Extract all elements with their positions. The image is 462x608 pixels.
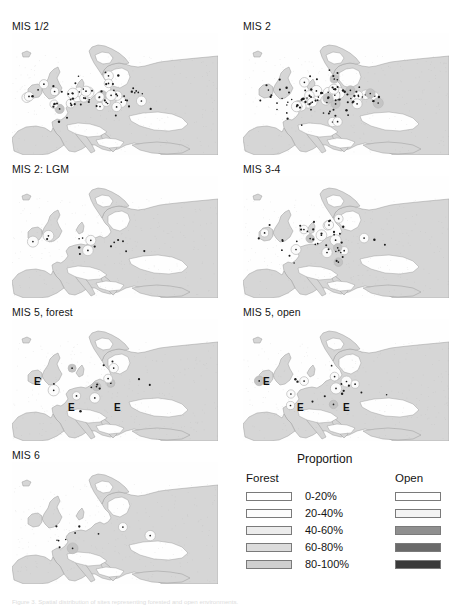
legend-label-0: 0-20%	[305, 490, 337, 502]
panel-title-mis-1-2: MIS 1/2	[12, 20, 49, 32]
legend-swatch-open-4	[395, 560, 441, 569]
legend-swatch-forest-1	[246, 509, 292, 518]
figure-root: MIS 1/2MIS 2MIS 2: LGMMIS 3-4MIS 5, fore…	[0, 0, 462, 608]
map-canvas-mis-6	[12, 462, 218, 584]
legend-swatch-open-2	[395, 526, 441, 535]
panel-title-mis-6: MIS 6	[12, 449, 40, 461]
map-canvas-mis-3-4	[243, 176, 449, 298]
panel-title-mis-2: MIS 2	[243, 20, 271, 32]
map-panel-mis-5-open: MIS 5, openEEE	[243, 306, 449, 442]
legend-label-3: 60-80%	[305, 541, 343, 553]
figure-caption: Figure 3. Spatial distribution of sites …	[12, 598, 452, 606]
legend-header-open: Open	[395, 472, 423, 484]
map-panel-mis-2: MIS 2	[243, 20, 449, 156]
legend-title: Proportion	[297, 452, 352, 466]
legend-swatch-forest-4	[246, 560, 292, 569]
legend-swatch-open-0	[395, 492, 441, 501]
panel-title-mis-3-4: MIS 3-4	[243, 163, 280, 175]
map-canvas-mis-2-lgm	[12, 176, 218, 298]
annotation-e-mis-5-forest-1: E	[68, 403, 75, 413]
map-legend: ProportionForestOpen0-20%20-40%40-60%60-…	[243, 452, 453, 582]
legend-swatch-forest-3	[246, 543, 292, 552]
legend-swatch-open-3	[395, 543, 441, 552]
panel-title-mis-5-forest: MIS 5, forest	[12, 306, 73, 318]
map-panel-mis-5-forest: MIS 5, forestEEE	[12, 306, 218, 442]
map-canvas-mis-2	[243, 33, 449, 155]
annotation-e-mis-5-forest-0: E	[34, 377, 41, 387]
legend-swatch-open-1	[395, 509, 441, 518]
map-canvas-mis-5-forest	[12, 319, 218, 441]
legend-swatch-forest-2	[246, 526, 292, 535]
annotation-e-mis-5-forest-2: E	[114, 403, 121, 413]
map-panel-mis-6: MIS 6	[12, 449, 218, 585]
map-panel-mis-1-2: MIS 1/2	[12, 20, 218, 156]
panel-title-mis-5-open: MIS 5, open	[243, 306, 301, 318]
legend-label-2: 40-60%	[305, 524, 343, 536]
map-panel-mis-2-lgm: MIS 2: LGM	[12, 163, 218, 299]
map-canvas-mis-5-open	[243, 319, 449, 441]
legend-header-forest: Forest	[246, 472, 279, 484]
annotation-e-mis-5-open-1: E	[297, 403, 304, 413]
annotation-e-mis-5-open-2: E	[343, 403, 350, 413]
legend-swatch-forest-0	[246, 492, 292, 501]
map-canvas-mis-1-2	[12, 33, 218, 155]
map-panel-mis-3-4: MIS 3-4	[243, 163, 449, 299]
panel-title-mis-2-lgm: MIS 2: LGM	[12, 163, 69, 175]
legend-label-4: 80-100%	[305, 558, 349, 570]
annotation-e-mis-5-open-0: E	[263, 377, 270, 387]
legend-label-1: 20-40%	[305, 507, 343, 519]
